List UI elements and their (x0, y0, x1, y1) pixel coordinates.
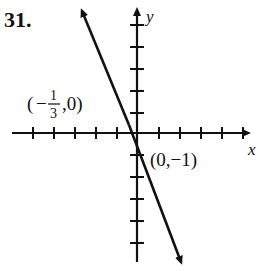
svg-text:−: − (36, 93, 47, 114)
x-axis-label: x (247, 140, 256, 159)
svg-text:(: ( (27, 93, 33, 115)
svg-text:3: 3 (50, 106, 57, 121)
point-label-x-intercept: ( − 1 3 ,0) (27, 88, 83, 121)
svg-text:,0): ,0) (62, 93, 83, 115)
graph: 31. y x ( − 1 3 ,0) (0,−1) (0, 0, 258, 271)
y-axis-label: y (144, 7, 154, 26)
problem-number: 31. (4, 7, 32, 32)
point-label-y-intercept: (0,−1) (150, 149, 197, 171)
figure: 31. y x ( − 1 3 ,0) (0,−1) (0, 0, 258, 271)
svg-text:1: 1 (50, 88, 57, 103)
